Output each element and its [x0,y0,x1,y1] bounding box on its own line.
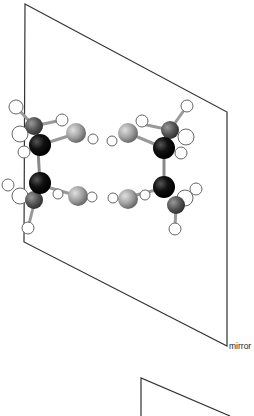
right-molecule [107,100,202,235]
mirror-plane [24,4,227,346]
mirror-label: mirror [229,341,251,351]
second-plane [141,378,230,416]
diagram-canvas [0,0,254,416]
left-molecule [2,100,98,234]
